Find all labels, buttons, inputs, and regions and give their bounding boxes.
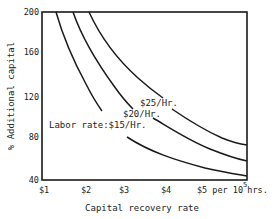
x-tick-4: $4 xyxy=(161,185,171,195)
x-axis-label: Capital recovery rate xyxy=(85,203,199,213)
y-tick-120: 120 xyxy=(24,92,39,102)
chart: $25/Hr. $20/Hr. Labor rate:$15/Hr. 200 1… xyxy=(0,0,279,219)
x-tick-5: $5 per 105hrs. xyxy=(197,181,268,195)
y-tick-40: 40 xyxy=(29,175,39,185)
label-15: Labor rate:$15/Hr. xyxy=(49,120,147,130)
y-tick-200: 200 xyxy=(24,7,39,17)
x-tick-3: $3 xyxy=(119,185,129,195)
x-tick-1: $1 xyxy=(39,185,49,195)
y-axis-label: % Additional capital xyxy=(6,42,16,150)
label-20: $20/Hr. xyxy=(123,109,161,119)
curve-20 xyxy=(73,12,247,161)
x-tick-2: $2 xyxy=(81,185,91,195)
y-tick-160: 160 xyxy=(24,47,39,57)
y-tick-80: 80 xyxy=(29,132,39,142)
curve-15 xyxy=(56,12,247,176)
plot-frame xyxy=(42,12,247,180)
label-25: $25/Hr. xyxy=(140,98,178,108)
